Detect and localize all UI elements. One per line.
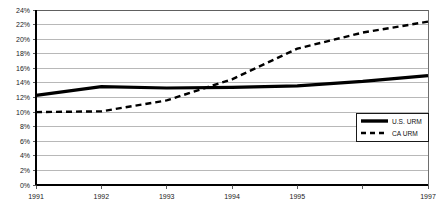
y-tick-label: 22%: [16, 21, 30, 28]
x-tick-label: 1995: [290, 193, 306, 200]
series-line-ca-urm: [36, 22, 428, 112]
line-chart: 0%2%4%6%8%10%12%14%16%18%20%22%24% 19911…: [0, 0, 436, 215]
y-axis-tick-labels: 0%2%4%6%8%10%12%14%16%18%20%22%24%: [16, 7, 30, 189]
legend-label-us-urm: U.S. URM: [392, 118, 422, 125]
chart-legend: U.S. URM CA URM: [357, 114, 429, 142]
y-tick-label: 18%: [16, 50, 30, 57]
y-tick-label: 6%: [20, 138, 30, 145]
data-series: [36, 22, 428, 112]
y-tick-label: 24%: [16, 7, 30, 14]
legend-label-ca-urm: CA URM: [392, 130, 418, 137]
x-tick-label: 1994: [224, 193, 240, 200]
y-tick-label: 0%: [20, 182, 30, 189]
x-tick-label: 1997: [420, 193, 436, 200]
x-tick-label: 1993: [159, 193, 175, 200]
gridlines: [36, 10, 428, 170]
y-tick-label: 12%: [16, 94, 30, 101]
x-tick-label: 1992: [94, 193, 110, 200]
y-tick-label: 16%: [16, 65, 30, 72]
y-tick-label: 14%: [16, 79, 30, 86]
y-tick-label: 2%: [20, 167, 30, 174]
x-tick-label: 1991: [28, 193, 44, 200]
y-tick-label: 4%: [20, 152, 30, 159]
y-tick-label: 8%: [20, 123, 30, 130]
x-axis-tick-labels: 199119921993199419951997: [28, 193, 436, 200]
y-tick-label: 10%: [16, 109, 30, 116]
y-tick-label: 20%: [16, 36, 30, 43]
chart-canvas: 0%2%4%6%8%10%12%14%16%18%20%22%24% 19911…: [0, 0, 436, 215]
